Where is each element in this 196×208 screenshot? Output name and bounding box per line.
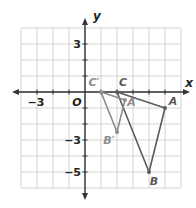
y-tick-label: 3 [73, 38, 81, 51]
vertex-label: A [168, 95, 178, 108]
y-axis-up-arrow-icon [82, 18, 88, 25]
y-axis-down-arrow-icon [82, 193, 88, 200]
vertex-point [147, 170, 151, 174]
y-tick-label: −5 [64, 166, 81, 179]
y-axis-label: y [93, 9, 102, 23]
x-axis-label: x [184, 76, 194, 90]
vertex-label: C′ [89, 76, 100, 89]
coordinate-plane: xyO−33−3−5 CABC′A′B′ [0, 0, 196, 208]
vertex-point [163, 106, 167, 110]
vertex-point [115, 130, 119, 134]
origin-label: O [72, 96, 81, 109]
vertex-label: B [150, 175, 158, 188]
vertex-label: C [119, 76, 127, 89]
vertex-point [115, 90, 119, 94]
vertex-label: A′ [126, 96, 139, 109]
triangle-image [101, 92, 125, 132]
grid-lines [21, 28, 181, 188]
vertex-point [99, 90, 103, 94]
vertex-label: B′ [103, 134, 114, 147]
y-tick-label: −3 [64, 134, 81, 147]
x-axis-left-arrow-icon [12, 89, 19, 95]
x-tick-label: −3 [28, 96, 45, 109]
